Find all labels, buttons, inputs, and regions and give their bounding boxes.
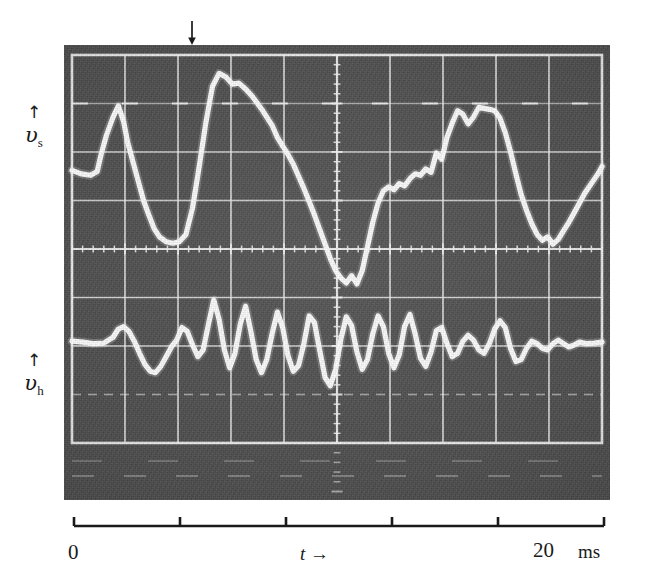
time-axis-end-label: 20 — [533, 538, 554, 563]
y-axis-symbol-vs: υs — [8, 125, 60, 149]
y-axis-arrow-vh: ↑ — [8, 352, 60, 369]
time-axis-variable-label: t → — [300, 543, 329, 565]
y-axis-arrow-vs: ↑ — [8, 104, 60, 121]
time-scale-bar — [64, 512, 610, 538]
time-axis-start-label: 0 — [68, 540, 79, 565]
y-axis-label-vs: ↑ υs — [8, 104, 60, 149]
y-axis-label-vh: ↑ υh — [8, 352, 60, 397]
trigger-arrow-icon — [183, 20, 201, 46]
oscilloscope-screen — [64, 45, 610, 500]
scope-graticule-and-traces — [64, 45, 610, 500]
y-axis-symbol-vh: υh — [8, 373, 60, 397]
time-axis-unit-label: ms — [578, 541, 600, 563]
oscillogram-figure: ↑ υs ↑ υh 0 t → 20 ms — [0, 0, 657, 585]
